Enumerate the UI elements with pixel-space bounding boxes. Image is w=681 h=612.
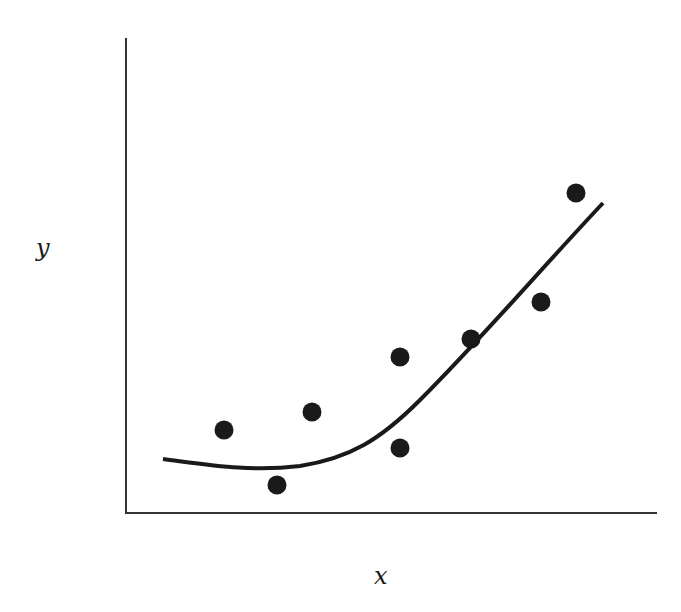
data-points [215, 184, 586, 495]
y-axis-label: y [35, 234, 50, 262]
scatter-chart: y x [0, 0, 681, 612]
data-point [391, 348, 410, 367]
data-point [303, 403, 322, 422]
data-point [567, 184, 586, 203]
data-point [268, 476, 287, 495]
data-point [462, 330, 481, 349]
data-point [391, 439, 410, 458]
data-point [532, 293, 551, 312]
x-axis-label: x [374, 562, 388, 590]
data-point [215, 421, 234, 440]
